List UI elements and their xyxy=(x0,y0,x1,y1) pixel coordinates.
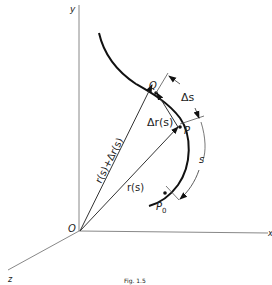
space-curve-diagram: y x z O Q P P0 Δr(s) r(s) r(s)+Δr(s) Δs … xyxy=(0,0,272,285)
point-P xyxy=(178,125,182,129)
delta-s-label: Δs xyxy=(181,91,195,104)
delta-s-arrow-bottom xyxy=(195,108,199,118)
tick-Q xyxy=(156,73,168,93)
z-axis xyxy=(8,231,79,270)
space-curve xyxy=(99,33,189,206)
z-axis-label: z xyxy=(7,275,13,284)
point-P-label: P xyxy=(184,125,191,136)
r-plus-delta-r-label: r(s)+Δr(s) xyxy=(93,136,125,185)
tick-P0 xyxy=(166,186,179,200)
s-label: s xyxy=(199,154,204,165)
tick-P xyxy=(180,116,204,124)
point-Q-label: Q xyxy=(149,80,157,91)
r-s-label: r(s) xyxy=(127,182,144,193)
delta-r-label: Δr(s) xyxy=(147,116,173,129)
axes xyxy=(8,5,268,270)
delta-s-arrow-top xyxy=(169,76,180,84)
x-axis-label: x xyxy=(267,229,272,238)
point-P0-label: P0 xyxy=(156,201,167,215)
x-axis xyxy=(79,231,268,233)
y-axis-label: y xyxy=(69,4,76,14)
point-P0 xyxy=(163,191,167,195)
origin-label: O xyxy=(68,223,76,234)
figure-caption: Fig. 1.5 xyxy=(124,277,146,285)
